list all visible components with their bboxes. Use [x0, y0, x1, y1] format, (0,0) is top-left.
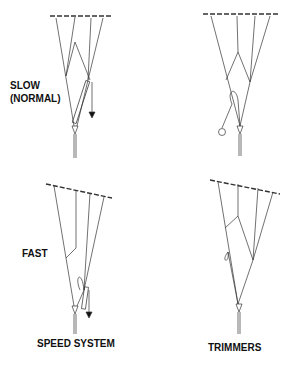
trimmers-normal-diagram [203, 14, 278, 156]
label-fast: FAST [22, 248, 48, 260]
trimmers-fast-diagram [210, 180, 280, 334]
fast-riser-diagram [46, 184, 112, 334]
riser-diagram [0, 0, 287, 368]
slow-riser-diagram [50, 16, 112, 158]
label-slow-normal: (NORMAL) [10, 93, 61, 105]
label-speed-system: SPEED SYSTEM [37, 338, 115, 350]
label-trimmers: TRIMMERS [208, 342, 261, 354]
label-slow: SLOW [10, 80, 40, 92]
